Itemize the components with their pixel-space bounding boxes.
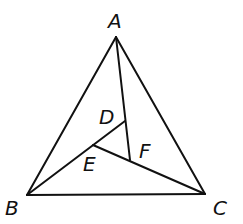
label-b: B: [5, 196, 19, 220]
segments: [27, 37, 205, 195]
triangle-diagram: A B C D E F: [0, 0, 243, 224]
label-c: C: [213, 196, 227, 220]
segment-bc: [27, 194, 205, 195]
label-f: F: [139, 139, 151, 163]
segment-bd: [27, 121, 125, 195]
label-d: D: [99, 105, 114, 129]
segment-af: [116, 37, 130, 160]
label-a: A: [106, 9, 122, 33]
label-e: E: [83, 152, 96, 176]
segment-ac: [116, 37, 205, 194]
